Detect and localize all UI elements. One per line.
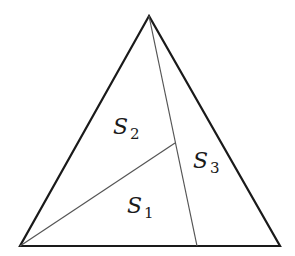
apex-to-base-line xyxy=(149,16,197,246)
diagram-svg: S 2 S 3 S 1 xyxy=(0,0,295,256)
region-s1-subscript: 1 xyxy=(144,204,154,222)
corner-to-interior-line xyxy=(20,143,175,246)
region-label-s3: S 3 xyxy=(193,148,220,177)
region-s2-letter: S xyxy=(113,114,128,139)
region-label-s1: S 1 xyxy=(127,193,154,222)
region-s3-letter: S xyxy=(193,148,208,173)
region-s3-subscript: 3 xyxy=(210,159,220,177)
region-s1-letter: S xyxy=(127,193,142,218)
triangle-diagram: S 2 S 3 S 1 xyxy=(0,0,295,256)
region-s2-subscript: 2 xyxy=(130,125,140,143)
region-label-s2: S 2 xyxy=(113,114,140,143)
